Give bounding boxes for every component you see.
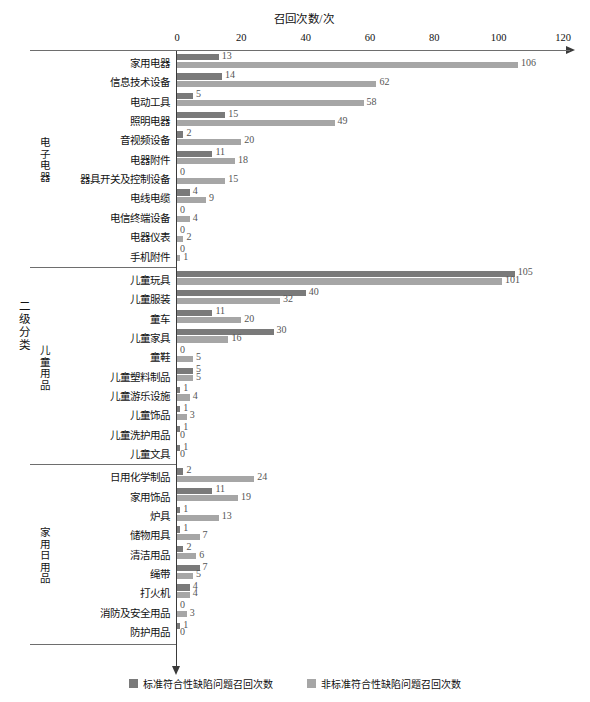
bar-standard	[177, 329, 274, 335]
legend-label: 非标准符合性缺陷问题召回次数	[321, 676, 461, 691]
legend-item-standard[interactable]: 标准符合性缺陷问题召回次数	[129, 676, 273, 691]
bar-value-label: 1	[183, 402, 188, 413]
bar-standard	[177, 468, 183, 474]
separator-line	[30, 644, 176, 645]
bar-non-standard	[177, 62, 518, 68]
bar-non-standard	[177, 573, 193, 579]
bar-standard	[177, 112, 225, 118]
bar-non-standard	[177, 216, 190, 222]
bar-standard	[177, 131, 183, 137]
x-tick-80: 80	[429, 32, 440, 43]
bar-standard	[177, 54, 219, 60]
bar-non-standard	[177, 317, 241, 323]
bar-value-label: 0	[180, 448, 185, 459]
bar-non-standard	[177, 375, 193, 381]
bar-value-label: 32	[283, 293, 293, 304]
bar-value-label: 9	[209, 192, 214, 203]
category-label: 家用电器	[0, 55, 170, 70]
category-label: 儿童玩具	[0, 272, 170, 287]
bar-value-label: 20	[244, 134, 254, 145]
bar-standard	[177, 488, 212, 494]
legend-item-non-standard[interactable]: 非标准符合性缺陷问题召回次数	[307, 676, 461, 691]
bar-value-label: 2	[186, 231, 191, 242]
bar-non-standard	[177, 139, 241, 145]
bar-non-standard	[177, 553, 196, 559]
bar-value-label: 18	[238, 154, 248, 165]
category-label: 电信终端设备	[0, 210, 170, 225]
category-label: 电器附件	[0, 152, 170, 167]
category-label: 电线电缆	[0, 190, 170, 205]
bar-value-label: 4	[193, 390, 198, 401]
bar-non-standard	[177, 178, 225, 184]
bar-non-standard	[177, 394, 190, 400]
bar-value-label: 0	[180, 204, 185, 215]
bar-value-label: 106	[521, 57, 536, 68]
bar-value-label: 16	[231, 332, 241, 343]
category-label: 儿童文具	[0, 446, 170, 461]
bar-value-label: 2	[186, 541, 191, 552]
bar-value-label: 11	[215, 483, 225, 494]
category-label: 器具开关及控制设备	[0, 171, 170, 186]
category-label: 储物用具	[0, 527, 170, 542]
chart-title: 召回次数/次	[0, 10, 590, 26]
legend-swatch-icon	[307, 679, 316, 688]
bar-value-label: 15	[228, 173, 238, 184]
category-label: 照明电器	[0, 113, 170, 128]
bar-value-label: 0	[180, 429, 185, 440]
bar-standard	[177, 584, 190, 590]
category-label: 儿童游乐设施	[0, 388, 170, 403]
bar-non-standard	[177, 278, 502, 284]
bar-standard	[177, 387, 180, 393]
bar-standard	[177, 546, 183, 552]
bar-value-label: 4	[193, 212, 198, 223]
separator-line	[30, 50, 570, 51]
bar-non-standard	[177, 336, 228, 342]
bar-standard	[177, 271, 515, 277]
bar-value-label: 1	[183, 522, 188, 533]
bar-non-standard	[177, 476, 254, 482]
category-label: 儿童饰品	[0, 407, 170, 422]
x-tick-120: 120	[555, 32, 571, 43]
bar-non-standard	[177, 414, 187, 420]
bar-value-label: 6	[199, 549, 204, 560]
bar-value-label: 62	[379, 76, 389, 87]
legend-swatch-icon	[129, 679, 138, 688]
category-label: 音视频设备	[0, 132, 170, 147]
x-tick-0: 0	[174, 32, 179, 43]
bar-value-label: 7	[203, 529, 208, 540]
bar-value-label: 7	[203, 561, 208, 572]
bar-standard	[177, 368, 193, 374]
category-label: 儿童服装	[0, 291, 170, 306]
bar-standard	[177, 151, 212, 157]
bar-non-standard	[177, 592, 190, 598]
bar-value-label: 30	[277, 324, 287, 335]
bar-non-standard	[177, 534, 200, 540]
bar-value-label: 13	[222, 510, 232, 521]
bar-value-label: 3	[190, 607, 195, 618]
bar-standard	[177, 507, 180, 513]
category-label: 童车	[0, 311, 170, 326]
bar-non-standard	[177, 515, 219, 521]
separator-line	[30, 464, 176, 465]
category-label: 炉具	[0, 508, 170, 523]
bar-value-label: 1	[183, 251, 188, 262]
chart-title-text: 召回次数/次	[274, 10, 335, 26]
bar-value-label: 49	[338, 115, 348, 126]
bar-non-standard	[177, 611, 187, 617]
category-label: 儿童塑料制品	[0, 369, 170, 384]
bar-value-label: 4	[193, 185, 198, 196]
bar-standard	[177, 406, 180, 412]
bar-non-standard	[177, 158, 235, 164]
bar-value-label: 14	[225, 69, 235, 80]
x-tick-20: 20	[236, 32, 247, 43]
bar-value-label: 0	[180, 626, 185, 637]
category-label: 儿童洗护用品	[0, 427, 170, 442]
bar-value-label: 1	[183, 503, 188, 514]
bar-non-standard	[177, 298, 280, 304]
bar-value-label: 58	[367, 96, 377, 107]
bar-value-label: 15	[228, 108, 238, 119]
chart-legend: 标准符合性缺陷问题召回次数非标准符合性缺陷问题召回次数	[0, 676, 590, 691]
bar-value-label: 11	[215, 146, 225, 157]
category-label: 绳带	[0, 566, 170, 581]
bar-value-label: 11	[215, 305, 225, 316]
